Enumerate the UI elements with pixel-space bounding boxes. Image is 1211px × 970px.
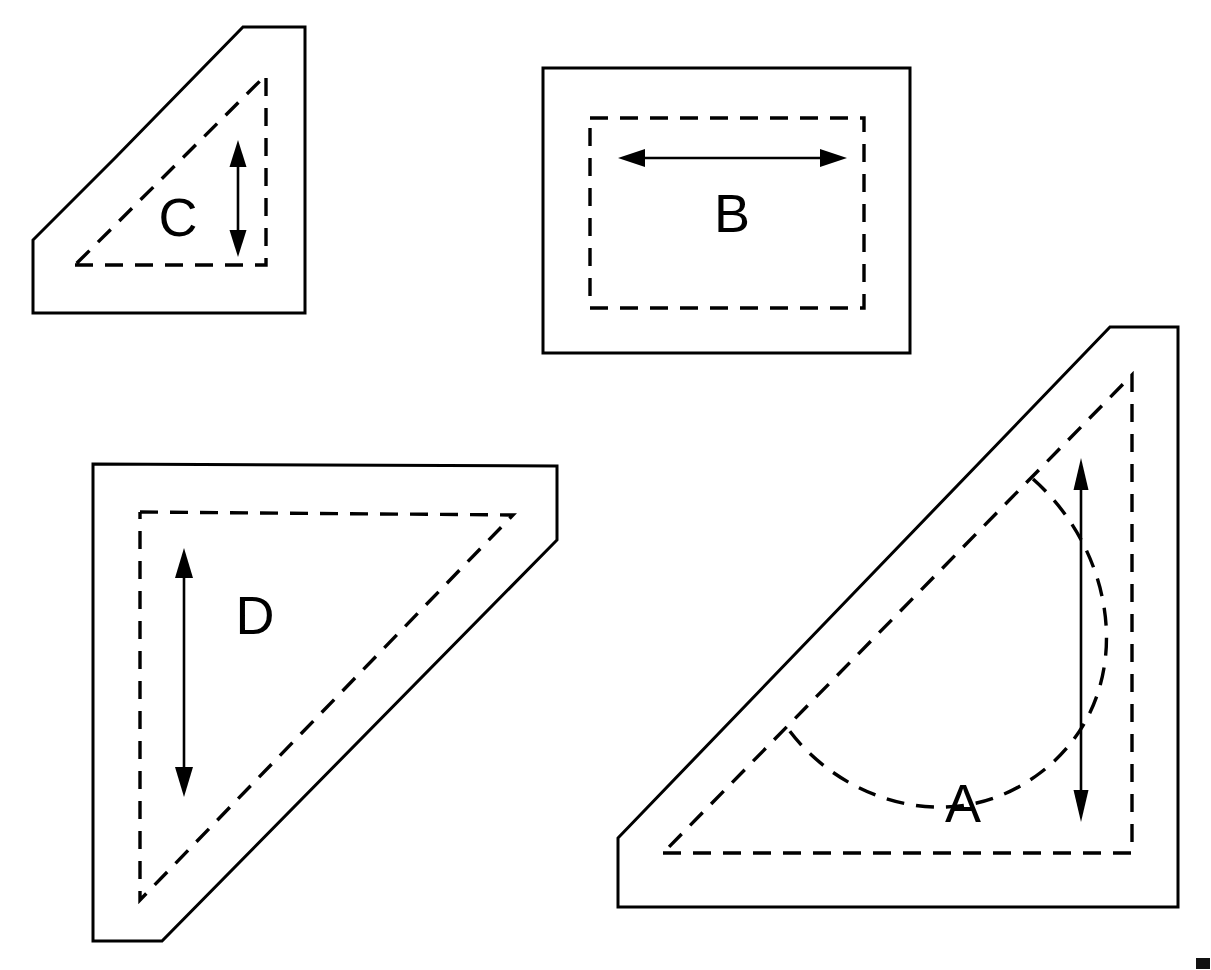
shape-d-label: D — [236, 585, 275, 645]
technical-drawing: Four labeled solid shapes with hidden-li… — [0, 0, 1211, 970]
shape-d-outline — [93, 464, 557, 941]
figure-canvas: Four labeled solid shapes with hidden-li… — [0, 0, 1211, 970]
shape-c-group[interactable]: C — [33, 27, 305, 313]
page-corner-mark — [1196, 958, 1210, 969]
shape-a-label: A — [945, 773, 981, 833]
shape-c-label: C — [159, 187, 198, 247]
shape-b-label: B — [714, 183, 750, 243]
shape-a-group[interactable]: A — [618, 327, 1178, 907]
shape-d-group[interactable]: D — [93, 464, 557, 941]
shape-b-group[interactable]: B — [543, 68, 910, 353]
